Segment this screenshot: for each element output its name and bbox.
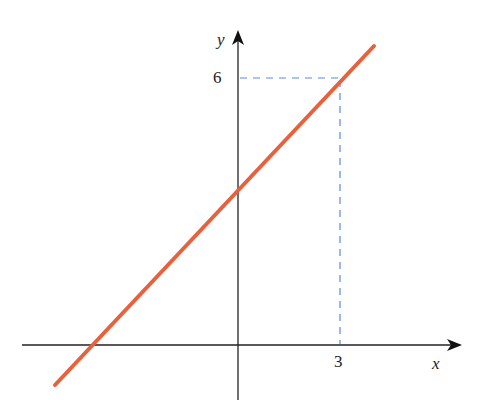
chart-canvas: [0, 0, 481, 412]
y-axis-label: y: [217, 30, 225, 50]
x-tick-3: 3: [334, 352, 343, 372]
y-tick-6: 6: [213, 68, 222, 88]
chart: y 6 3 x: [0, 0, 481, 412]
data-line: [55, 46, 374, 385]
x-axis-label: x: [432, 354, 440, 374]
